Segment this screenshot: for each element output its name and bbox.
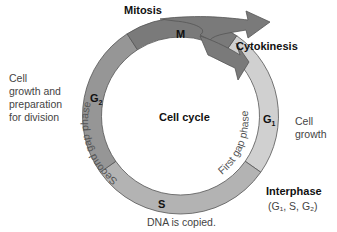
interphase-subtitle: (G₁, S, G₂) [268,200,318,213]
interphase-label: Interphase [266,185,322,198]
s-description: DNA is copied. [147,216,216,229]
mitosis-label: Mitosis [124,4,162,17]
cytokinesis-label: Cytokinesis [236,40,298,53]
m-phase-label: M [176,28,185,41]
g2-description: Cell growth and preparation for division [9,72,62,124]
s-phase-label: S [158,198,165,211]
g1-description: Cell growth [295,115,327,141]
diagram-title: Cell cycle [159,111,210,124]
g1-phase-label: G1 [263,113,275,130]
g2-phase-label: G2 [90,92,102,109]
s-segment [100,161,261,214]
